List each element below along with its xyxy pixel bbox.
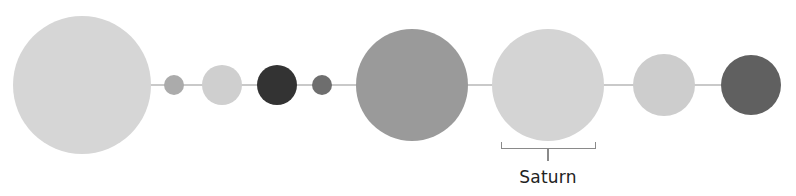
mercury-circle bbox=[164, 75, 184, 95]
jupiter-circle bbox=[356, 29, 468, 141]
saturn-label: Saturn bbox=[519, 167, 576, 187]
saturn-circle bbox=[492, 29, 604, 141]
earth-circle bbox=[257, 65, 297, 105]
saturn-bracket bbox=[501, 142, 596, 149]
saturn-bracket-stem bbox=[547, 149, 549, 161]
uranus-circle bbox=[633, 54, 695, 116]
sun-circle bbox=[13, 16, 151, 154]
neptune-circle bbox=[721, 55, 781, 115]
solar-system-diagram: Saturn bbox=[0, 0, 796, 196]
venus-circle bbox=[202, 65, 242, 105]
mars-circle bbox=[312, 75, 332, 95]
